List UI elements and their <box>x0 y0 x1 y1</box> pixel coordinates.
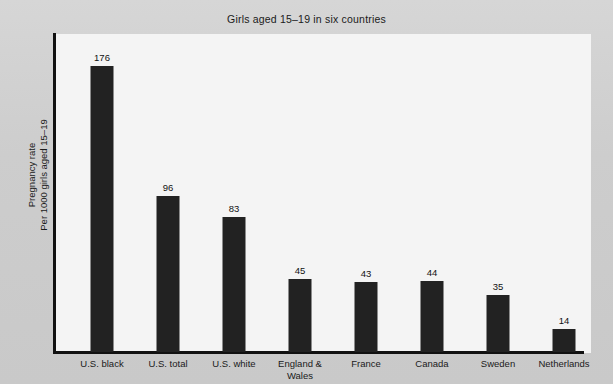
bar-group[interactable]: 96 <box>135 34 201 352</box>
x-axis-tick-labels: U.S. blackU.S. totalU.S. whiteEngland &W… <box>54 358 591 384</box>
bar[interactable] <box>355 282 378 352</box>
bar-value-label: 35 <box>493 281 504 292</box>
y-axis-label-line-2: Per 1000 girls aged 15–19 <box>38 119 50 230</box>
bar[interactable] <box>91 66 114 352</box>
bar-value-label: 176 <box>94 52 110 63</box>
bar-group[interactable]: 14 <box>531 34 597 352</box>
bar-group[interactable]: 44 <box>399 34 465 352</box>
bar-group[interactable]: 176 <box>69 34 135 352</box>
bar-value-label: 96 <box>163 182 174 193</box>
bar-group[interactable]: 43 <box>333 34 399 352</box>
bar-series: 17696834543443514 <box>54 34 591 352</box>
bar[interactable] <box>421 281 444 352</box>
x-tick-label-7: Netherlands <box>525 358 603 370</box>
x-tick-label-line: Wales <box>261 370 339 382</box>
bar-value-label: 14 <box>559 315 570 326</box>
bar-value-label: 44 <box>427 267 438 278</box>
bar-group[interactable]: 83 <box>201 34 267 352</box>
bar[interactable] <box>223 217 246 352</box>
chart-title: Girls aged 15–19 in six countries <box>0 13 613 25</box>
bar[interactable] <box>289 279 312 352</box>
bar[interactable] <box>487 295 510 352</box>
bar-value-label: 83 <box>229 203 240 214</box>
y-axis-label-line-1: Pregnancy rate <box>26 143 38 207</box>
y-axis-label: Pregnancy rate Per 1000 girls aged 15–19 <box>23 75 53 275</box>
bar-group[interactable]: 45 <box>267 34 333 352</box>
bar[interactable] <box>157 196 180 352</box>
bar-group[interactable]: 35 <box>465 34 531 352</box>
bar-value-label: 45 <box>295 265 306 276</box>
x-tick-label-line: Netherlands <box>525 358 603 370</box>
bar-value-label: 43 <box>361 268 372 279</box>
bar[interactable] <box>553 329 576 352</box>
chart-figure: Girls aged 15–19 in six countries Pregna… <box>0 0 613 384</box>
